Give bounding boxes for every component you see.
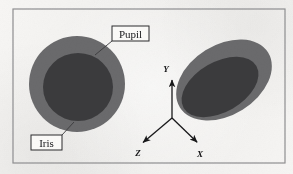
figure-canvas: Y Z X Pupil Iris xyxy=(0,0,293,174)
eye-diagram-svg: Y Z X Pupil Iris xyxy=(0,0,293,174)
paper-grain-overlay xyxy=(0,0,293,174)
